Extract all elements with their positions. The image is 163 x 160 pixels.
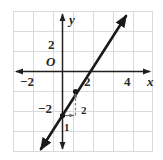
- slope-run-label: 1: [64, 122, 70, 133]
- origin-label: O: [46, 55, 55, 68]
- y-axis-label: y: [69, 13, 75, 26]
- point-upper: [73, 89, 78, 94]
- x-tick-label-4: 4: [124, 75, 131, 88]
- x-tick-label-2: 2: [84, 75, 91, 88]
- x-tick-label-negative-2: −2: [20, 75, 34, 88]
- point-lower: [60, 113, 65, 118]
- slope-rise-label: 2: [81, 105, 87, 116]
- graph-figure: y x O −2 2 4 2 −2 2 1: [0, 0, 163, 160]
- y-tick-label-negative-2: −2: [38, 102, 52, 115]
- y-tick-label-2: 2: [48, 38, 55, 51]
- x-axis-label: x: [147, 75, 154, 88]
